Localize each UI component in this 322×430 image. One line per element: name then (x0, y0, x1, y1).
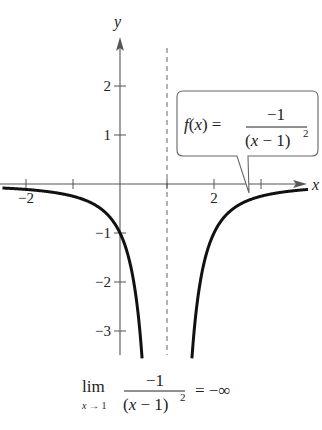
limit-caption: lim x → 1 −1 (x − 1) 2 = −∞ (81, 371, 231, 414)
function-callout: f(x) = −1 (x − 1) 2 (177, 91, 318, 193)
function-curves (3, 188, 309, 358)
y-tick-label: 2 (104, 78, 112, 94)
caption-lim: lim (82, 377, 105, 396)
y-tick-label: −1 (95, 225, 111, 241)
caption-numerator: −1 (146, 371, 164, 390)
caption-exponent: 2 (180, 391, 186, 403)
svg-text:(x − 1): (x − 1) (245, 131, 290, 150)
right-branch-curve (192, 189, 308, 358)
x-tick-label: −2 (18, 190, 34, 206)
svg-text:x → 1: x → 1 (81, 400, 106, 411)
y-axis-label: y (112, 13, 122, 31)
svg-text:(x − 1): (x − 1) (123, 395, 168, 414)
left-branch-curve (3, 188, 143, 358)
svg-text:f(x) =: f(x) = (184, 115, 221, 134)
y-tick-label: −3 (95, 323, 111, 339)
y-tick-label: 1 (104, 127, 112, 143)
callout-numerator: −1 (267, 105, 285, 124)
x-tick-label: 2 (210, 190, 218, 206)
x-axis-label: x (311, 176, 319, 193)
caption-result: = −∞ (195, 381, 231, 400)
limit-graph-figure: −22 x 21−1−2−3 y f(x) = −1 (x − 1) 2 lim… (0, 0, 322, 430)
y-tick-label: −2 (95, 274, 111, 290)
callout-exponent: 2 (303, 127, 309, 139)
